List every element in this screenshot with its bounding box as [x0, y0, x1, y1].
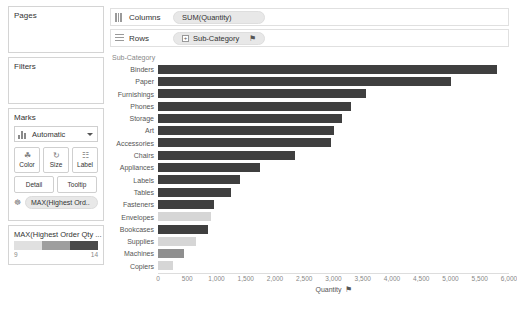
- color-button[interactable]: ☘ Color: [14, 147, 40, 173]
- category-label: Copiers: [110, 261, 158, 273]
- category-label: Fasteners: [110, 199, 158, 211]
- label-button[interactable]: ☷ Label: [72, 147, 98, 173]
- bar-mark[interactable]: [158, 200, 214, 209]
- category-label: Phones: [110, 101, 158, 113]
- columns-shelf-label: Columns: [129, 13, 173, 22]
- x-axis-tick: 2,500: [296, 275, 312, 282]
- legend-swatch-0: [14, 241, 42, 250]
- bar-row: [158, 149, 509, 161]
- bar-row: [158, 124, 509, 136]
- category-label: Binders: [110, 64, 158, 76]
- bar-row: [158, 260, 509, 272]
- legend-max-value: 14: [91, 251, 98, 258]
- x-axis-tick: 4,500: [413, 275, 429, 282]
- bar-mark[interactable]: [158, 65, 497, 74]
- size-button[interactable]: ↻ Size: [43, 147, 69, 173]
- mark-type-dropdown[interactable]: Automatic: [14, 126, 98, 142]
- x-axis-tick: 0: [156, 275, 160, 282]
- plot-wrapper: BindersPaperFurnishingsPhonesStorageArtA…: [110, 63, 509, 273]
- bar-mark[interactable]: [158, 89, 366, 98]
- color-encoding-pill[interactable]: MAX(Highest Ord..: [25, 196, 98, 209]
- bar-row: [158, 100, 509, 112]
- category-axis-labels: BindersPaperFurnishingsPhonesStorageArtA…: [110, 63, 158, 273]
- color-legend-ramp[interactable]: [14, 241, 98, 250]
- color-legend-title: MAX(Highest Order Qty ...: [9, 226, 103, 241]
- x-axis-title: Quantity⚑: [158, 285, 509, 294]
- bar-row: [158, 235, 509, 247]
- rows-icon: [115, 34, 124, 43]
- tooltip-button[interactable]: Tooltip: [57, 176, 97, 193]
- bar-mark[interactable]: [158, 261, 173, 270]
- bar-row: [158, 247, 509, 259]
- legend-min-value: 9: [14, 251, 18, 258]
- label-button-label: Label: [77, 161, 93, 168]
- shelf-area: Columns SUM(Quantity) Rows + Sub-Categor…: [110, 8, 509, 50]
- category-label: Storage: [110, 113, 158, 125]
- sort-descending-icon[interactable]: ⚑: [243, 34, 256, 43]
- marks-buttons-row-1: ☘ Color ↻ Size ☷ Label: [9, 147, 103, 173]
- columns-field-pill[interactable]: SUM(Quantity): [173, 11, 265, 24]
- columns-shelf[interactable]: Columns SUM(Quantity): [110, 8, 509, 26]
- bar-mark[interactable]: [158, 138, 331, 147]
- filters-panel[interactable]: Filters: [8, 57, 104, 104]
- color-legend-values: 9 14: [14, 251, 98, 258]
- marks-buttons-row-2: Detail Tooltip: [9, 176, 103, 193]
- color-legend-panel: MAX(Highest Order Qty ... 9 14: [8, 225, 104, 265]
- detail-button-label: Detail: [26, 181, 43, 188]
- detail-button[interactable]: Detail: [14, 176, 54, 193]
- bar-row: [158, 186, 509, 198]
- pages-panel[interactable]: Pages: [8, 6, 104, 53]
- bar-mark[interactable]: [158, 163, 260, 172]
- x-axis-tick: 4,000: [384, 275, 400, 282]
- bar-mark[interactable]: [158, 102, 351, 111]
- legend-swatch-1: [42, 241, 70, 250]
- chart-area: Sub-Category BindersPaperFurnishingsPhon…: [110, 54, 509, 309]
- bar-row: [158, 211, 509, 223]
- mark-type-label: Automatic: [32, 130, 65, 139]
- category-label: Tables: [110, 187, 158, 199]
- bar-chart-icon: [18, 130, 28, 139]
- bar-mark[interactable]: [158, 114, 342, 123]
- text-label-icon: ☷: [82, 152, 89, 160]
- bar-row: [158, 88, 509, 100]
- rows-field-pill[interactable]: + Sub-Category ⚑: [173, 32, 265, 45]
- x-axis-tick: 1,500: [238, 275, 254, 282]
- category-label: Art: [110, 125, 158, 137]
- bars-plot: [158, 63, 509, 273]
- bar-mark[interactable]: [158, 151, 295, 160]
- bar-mark[interactable]: [158, 225, 208, 234]
- category-label: Furnishings: [110, 89, 158, 101]
- x-axis: Quantity⚑ 05001,0001,5002,0002,5003,0003…: [158, 273, 509, 295]
- bar-mark[interactable]: [158, 212, 211, 221]
- bar-mark[interactable]: [158, 175, 240, 184]
- bar-mark[interactable]: [158, 126, 334, 135]
- marks-panel: Marks Automatic ☘ Color ↻ Size ☷ Label: [8, 108, 104, 221]
- bar-mark[interactable]: [158, 237, 196, 246]
- x-axis-tick: 1,000: [208, 275, 224, 282]
- tooltip-button-label: Tooltip: [68, 181, 87, 188]
- bar-row: [158, 63, 509, 75]
- bar-row: [158, 137, 509, 149]
- size-button-label: Size: [50, 161, 63, 168]
- marks-color-encoding-row: ☸ MAX(Highest Ord..: [9, 196, 103, 209]
- color-button-label: Color: [19, 161, 35, 168]
- palette-icon: ☘: [24, 152, 31, 160]
- expand-plus-icon[interactable]: +: [182, 35, 189, 42]
- bar-row: [158, 198, 509, 210]
- chevron-down-icon: [87, 133, 93, 136]
- x-axis-tick: 5,500: [472, 275, 488, 282]
- rows-field-label: Sub-Category: [193, 34, 239, 43]
- filters-title: Filters: [9, 58, 103, 74]
- bar-mark[interactable]: [158, 188, 231, 197]
- bar-row: [158, 223, 509, 235]
- category-label: Supplies: [110, 236, 158, 248]
- bar-row: [158, 112, 509, 124]
- rows-shelf[interactable]: Rows + Sub-Category ⚑: [110, 29, 509, 47]
- category-label: Machines: [110, 248, 158, 260]
- resize-icon: ↻: [53, 152, 60, 160]
- sort-descending-icon[interactable]: ⚑: [342, 285, 352, 294]
- category-label: Labels: [110, 175, 158, 187]
- bar-mark[interactable]: [158, 249, 184, 258]
- bar-mark[interactable]: [158, 77, 451, 86]
- category-label: Bookcases: [110, 224, 158, 236]
